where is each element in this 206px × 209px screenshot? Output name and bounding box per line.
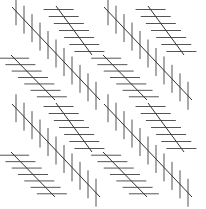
lower-diagonal	[103, 152, 147, 197]
main-diagonal	[12, 104, 100, 197]
zollner-illusion-canvas	[0, 0, 206, 209]
lower-diagonal	[11, 152, 55, 197]
lower-diagonal	[103, 55, 147, 100]
lower-diagonal	[11, 55, 55, 100]
main-diagonal	[104, 7, 192, 100]
main-diagonal	[104, 104, 192, 197]
main-diagonal	[12, 7, 100, 100]
